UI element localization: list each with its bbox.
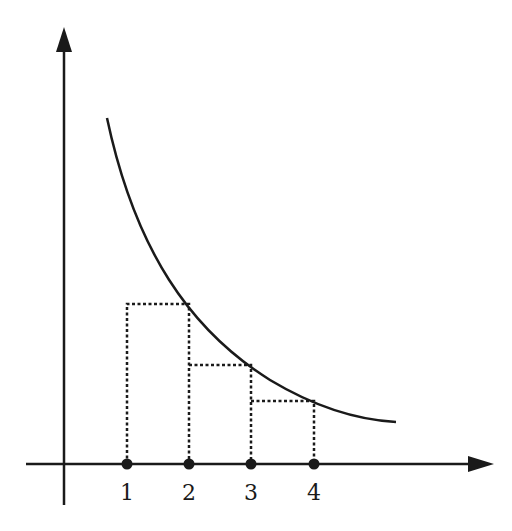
y-axis-arrow-icon — [56, 27, 72, 52]
tick-label-4: 4 — [307, 480, 321, 505]
rectangle-3-4 — [251, 401, 314, 464]
point-2 — [184, 459, 195, 470]
tick-label-2: 2 — [182, 480, 196, 505]
point-3 — [246, 459, 257, 470]
x-axis-arrow-icon — [468, 456, 494, 472]
rectangle-2-3 — [189, 365, 251, 464]
rectangles — [127, 304, 314, 464]
diagram-canvas — [0, 0, 512, 531]
tick-label-1: 1 — [120, 480, 134, 505]
tick-label-3: 3 — [244, 480, 258, 505]
point-4 — [309, 459, 320, 470]
point-1 — [122, 459, 133, 470]
rectangle-1-2 — [127, 304, 189, 464]
